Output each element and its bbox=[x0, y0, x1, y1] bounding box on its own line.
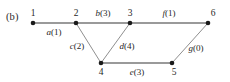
edge-label: g(0) bbox=[189, 44, 204, 53]
edge-label: f(1) bbox=[162, 9, 175, 18]
edge-weight: (4) bbox=[124, 41, 135, 51]
edge-label: a(1) bbox=[47, 28, 62, 37]
node-label: 4 bbox=[99, 68, 104, 78]
edge-weight: (3) bbox=[100, 8, 111, 18]
edge-weight: (1) bbox=[165, 8, 176, 18]
edge-weight: (0) bbox=[193, 43, 204, 53]
edge-label: b(3) bbox=[96, 9, 111, 18]
node-label: 5 bbox=[172, 68, 177, 78]
graph-node bbox=[99, 61, 104, 66]
node-label: 6 bbox=[211, 9, 216, 19]
edge-label: d(4) bbox=[120, 42, 135, 51]
edge-label: c(2) bbox=[70, 42, 85, 51]
edge-weight: (2) bbox=[74, 41, 85, 51]
edge-label: e(3) bbox=[130, 68, 145, 77]
node-label: 3 bbox=[128, 9, 133, 19]
graph-node bbox=[128, 21, 133, 26]
node-label: 1 bbox=[31, 9, 36, 19]
graph-node bbox=[170, 61, 175, 66]
graph-node bbox=[74, 21, 79, 26]
edge-weight: (3) bbox=[134, 67, 145, 77]
node-label: 2 bbox=[74, 9, 79, 19]
graph-node bbox=[206, 21, 211, 26]
figure-panel-b: (b) 123645 a(1)b(3)f(1)c(2)d(4)e(3)g(0) bbox=[0, 0, 230, 82]
edge-weight: (1) bbox=[51, 27, 62, 37]
panel-label: (b) bbox=[6, 11, 19, 22]
graph-node bbox=[31, 21, 36, 26]
